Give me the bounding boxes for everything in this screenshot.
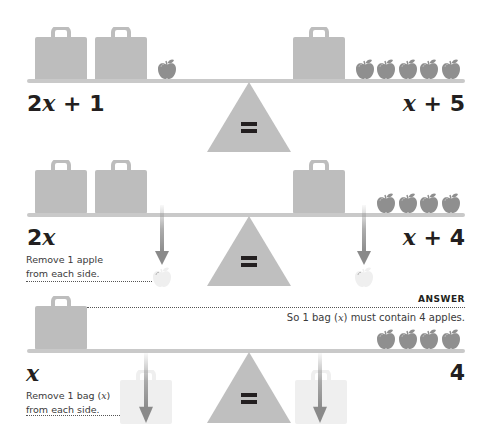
apple-icon [419,192,439,214]
right-expression: 4 [450,362,465,384]
instruction-text: Remove 1 bag (x) from each side. [26,389,110,417]
left-expression: 2x [27,226,55,249]
right-expression: x + 4 [403,226,465,249]
apple-icon [376,192,396,214]
apple-icon [376,328,396,350]
instruction-text: Remove 1 apple from each side. [26,253,103,281]
right-expression: x + 5 [403,92,465,115]
answer-label: ANSWER [418,294,465,304]
bag-icon [293,27,345,81]
arrow-down-icon [155,205,169,265]
dotted-divider [26,415,120,416]
bag-icon [293,160,345,214]
apple-icon [398,192,418,214]
equals-sign-icon [241,393,257,404]
apple-icon [398,328,418,350]
bag-icon [35,27,87,81]
apple-icon [441,58,461,80]
left-expression: x [26,362,39,385]
bag-icon [35,160,87,214]
arrow-down-icon [313,353,327,423]
apple-icon [398,58,418,80]
apple-icon [441,192,461,214]
bag-icon [95,27,147,81]
arrow-down-icon [357,205,371,265]
bag-icon [95,160,147,214]
fulcrum-triangle [207,352,291,423]
dotted-divider [26,281,152,282]
removed-apple-icon [354,266,374,288]
equals-sign-icon [241,122,257,133]
left-expression: 2x + 1 [27,92,105,115]
answer-text: So 1 bag (x) must contain 4 apples. [287,312,465,323]
answer-dotted-divider [87,307,465,308]
removed-apple-icon [152,266,172,288]
arrow-down-icon [139,353,153,423]
apple-icon [157,58,177,80]
equals-sign-icon [241,256,257,267]
fulcrum-triangle [207,82,291,152]
apple-icon [419,58,439,80]
fulcrum-triangle [207,216,291,286]
apple-icon [419,328,439,350]
apple-icon [355,58,375,80]
bag-icon [35,296,87,350]
apple-icon [441,328,461,350]
apple-icon [376,58,396,80]
